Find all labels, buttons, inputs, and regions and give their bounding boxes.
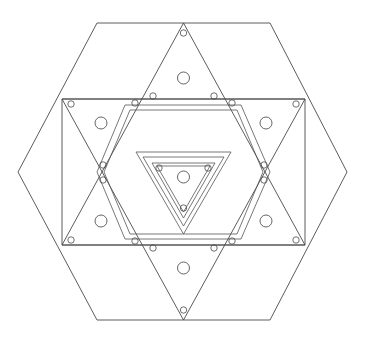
geometric-figure-canvas — [0, 0, 369, 343]
geometric-figure-svg — [0, 0, 369, 343]
